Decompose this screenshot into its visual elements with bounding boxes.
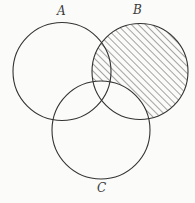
venn-diagram-figure: A B C — [0, 0, 195, 203]
circle-a-label: A — [57, 5, 66, 17]
venn-diagram-svg — [0, 0, 195, 203]
circle-c-label: C — [97, 182, 106, 194]
circle-b-label: B — [133, 4, 142, 16]
